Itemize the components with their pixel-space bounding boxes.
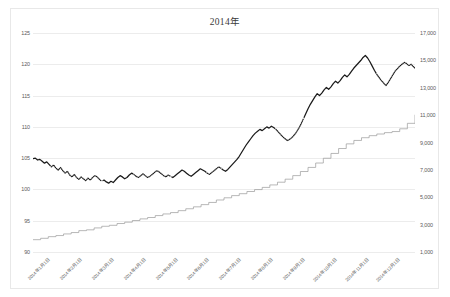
- primary-rate-series-solid: [33, 56, 415, 184]
- x-axis-tick-label: 2014年4月1日: [122, 256, 147, 281]
- gridline: [33, 252, 415, 253]
- primary-rate-series-dash-mask-0: [51, 165, 101, 181]
- left-axis-tick-label: 110: [4, 124, 30, 130]
- right-axis-tick-label: 13,000: [420, 85, 450, 91]
- x-axis-tick-label: 2014年11月1日: [343, 256, 370, 283]
- x-axis-tick: 2014年10月1日: [334, 256, 335, 257]
- left-axis-tick-label: 115: [4, 93, 30, 99]
- chart-container: 2014年 1251201151101051009590 17,00015,00…: [0, 0, 450, 297]
- x-axis-tick: 2014年8月1日: [270, 256, 271, 257]
- x-axis-tick: 2014年5月1日: [175, 256, 176, 257]
- x-axis-tick: 2014年12月1日: [397, 256, 398, 257]
- primary-rate-series-dash-mask-3: [276, 119, 304, 141]
- x-axis-tick: 2014年3月1日: [111, 256, 112, 257]
- primary-rate-series-dotted-1: [134, 171, 171, 178]
- x-axis-tick-label: 2014年5月1日: [154, 256, 179, 281]
- left-axis-tick-label: 105: [4, 155, 30, 161]
- x-axis-tick-label: 2014年10月1日: [311, 256, 338, 283]
- right-axis-tick-label: 17,000: [420, 30, 450, 36]
- x-axis-tick-label: 2014年2月1日: [58, 256, 83, 281]
- right-axis-tick-label: 11,000: [420, 112, 450, 118]
- x-axis-tick-label: 2014年8月1日: [249, 256, 274, 281]
- left-axis-tick-label: 125: [4, 30, 30, 36]
- right-axis-tick-label: 3,000: [420, 222, 450, 228]
- x-axis-tick: 2014年1月1日: [47, 256, 48, 257]
- primary-rate-series-dotted-3: [276, 119, 304, 141]
- x-axis-tick: 2014年9月1日: [302, 256, 303, 257]
- series-canvas: [33, 33, 415, 252]
- x-axis-tick-label: 2014年6月1日: [186, 256, 211, 281]
- right-axis-tick-label: 9,000: [420, 140, 450, 146]
- right-axis-tick-label: 15,000: [420, 57, 450, 63]
- x-axis-tick-label: 2014年3月1日: [90, 256, 115, 281]
- x-axis-tick: 2014年7月1日: [238, 256, 239, 257]
- left-axis-tick-label: 100: [4, 186, 30, 192]
- x-axis-tick: 2014年11月1日: [366, 256, 367, 257]
- plot-area: [33, 33, 415, 252]
- x-axis-tick: 2014年4月1日: [143, 256, 144, 257]
- left-axis-tick-label: 95: [4, 218, 30, 224]
- secondary-cumulative-series: [33, 115, 415, 240]
- right-axis-tick-label: 7,000: [420, 167, 450, 173]
- left-axis-tick-label: 120: [4, 61, 30, 67]
- x-axis-tick-label: 2014年1月1日: [26, 256, 51, 281]
- x-axis-tick-label: 2014年9月1日: [281, 256, 306, 281]
- left-axis-tick-label: 90: [4, 249, 30, 255]
- primary-rate-series-dotted-4: [377, 62, 415, 85]
- x-axis-tick: 2014年6月1日: [206, 256, 207, 257]
- right-axis-tick-label: 1,000: [420, 249, 450, 255]
- right-axis-tick-label: 5,000: [420, 194, 450, 200]
- x-axis-tick: 2014年2月1日: [79, 256, 80, 257]
- chart-title: 2014年: [0, 14, 450, 28]
- x-axis-tick-label: 2014年12月1日: [375, 256, 402, 283]
- x-axis-tick-label: 2014年7月1日: [217, 256, 242, 281]
